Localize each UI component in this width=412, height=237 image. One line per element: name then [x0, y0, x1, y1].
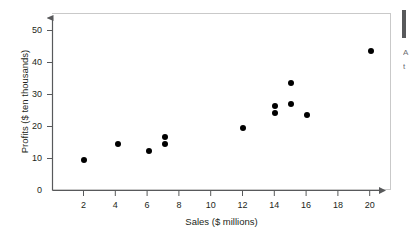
x-axis-title: Sales ($ millions) — [52, 216, 391, 227]
x-tick-label-10: 10 — [200, 201, 222, 210]
margin-rule — [402, 10, 406, 38]
x-tick-label-18: 18 — [327, 201, 349, 210]
y-tick-label-0: 0 — [20, 186, 42, 195]
x-tick-label-6: 6 — [136, 201, 158, 210]
margin-note-line-1: A — [403, 48, 412, 57]
x-tick-label-14: 14 — [263, 201, 285, 210]
data-point — [288, 80, 294, 86]
x-tick-label-20: 20 — [359, 201, 381, 210]
y-axis-title: Profits ($ ten thousands) — [19, 22, 30, 182]
x-tick-label-8: 8 — [168, 201, 190, 210]
data-point — [304, 112, 310, 118]
data-point — [272, 103, 278, 109]
x-tick-label-16: 16 — [295, 201, 317, 210]
data-point — [272, 110, 278, 116]
x-tick-label-12: 12 — [232, 201, 254, 210]
data-point — [368, 48, 374, 54]
x-tick-label-4: 4 — [104, 201, 126, 210]
data-point — [115, 141, 121, 147]
x-tick-label-2: 2 — [73, 201, 95, 210]
margin-note-line-2: t — [403, 62, 412, 71]
scatter-plot-figure: 50 40 30 20 10 0 2 4 6 8 10 12 14 16 18 … — [0, 0, 412, 237]
